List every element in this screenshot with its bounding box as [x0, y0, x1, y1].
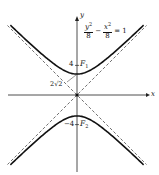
y-axis-label: y — [80, 12, 84, 19]
hyperbola-diagram — [0, 0, 159, 175]
y-denominator: 8 — [86, 33, 90, 41]
focus-sub: 1 — [85, 63, 88, 69]
x-exp: 2 — [108, 21, 111, 27]
x-denominator: 8 — [105, 33, 109, 41]
equals-one: = 1 — [114, 28, 127, 35]
vertex-distance-label: 2√2 — [50, 81, 62, 88]
equation-y-term: y2 8 — [84, 22, 93, 40]
equation-x-term: x2 8 — [103, 22, 112, 40]
minus-sign: − — [95, 28, 101, 35]
origin-point — [75, 93, 78, 96]
y-exp: 2 — [89, 21, 92, 27]
x-axis-arrow-icon — [146, 93, 150, 97]
equation-label: y2 8 − x2 8 = 1 — [84, 22, 127, 40]
y-axis-arrow-icon — [75, 16, 79, 21]
focus-label-lower: F2 — [80, 120, 88, 129]
focus-sub: 2 — [85, 123, 88, 129]
vertex-leader-line — [67, 75, 76, 82]
focus-label-upper: F1 — [80, 60, 88, 69]
x-axis-label: x — [151, 91, 155, 98]
focus-value-lower: −4 — [64, 121, 74, 128]
focus-value-upper: 4 — [69, 61, 73, 68]
